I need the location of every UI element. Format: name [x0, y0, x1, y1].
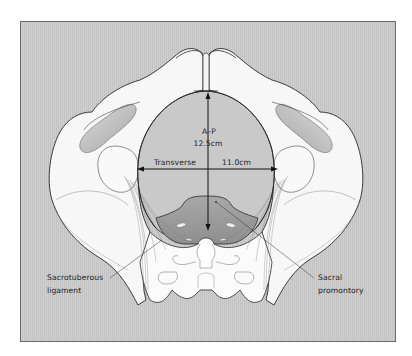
ap-label: A–P — [196, 127, 222, 137]
sacral-promontory-line1: Sacral — [318, 273, 364, 283]
sacral-promontory-label: Sacral promontory — [318, 273, 364, 295]
transverse-label: Transverse — [154, 158, 196, 168]
transverse-value: 11.0cm — [222, 158, 251, 168]
ap-value: 12.5cm — [190, 139, 226, 149]
pelvis-illustration — [0, 0, 412, 356]
sacral-promontory-line2: promontory — [318, 286, 364, 296]
sacrotuberous-line2: ligament — [47, 286, 103, 296]
sacrotuberous-ligament-label: Sacrotuberous ligament — [47, 273, 103, 295]
posterior-sacrum — [140, 232, 272, 302]
sacrotuberous-line1: Sacrotuberous — [47, 273, 103, 283]
